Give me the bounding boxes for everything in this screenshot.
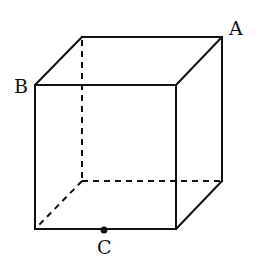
edge-top-right-diagonal [176, 37, 222, 85]
cube-diagram: A B C [0, 0, 260, 261]
label-a: A [228, 17, 243, 39]
hidden-edge-bottom-left-diagonal [35, 181, 82, 229]
point-c-dot [101, 227, 108, 234]
label-b: B [14, 75, 28, 97]
label-c: C [97, 236, 112, 258]
edge-bottom-right-diagonal [176, 181, 222, 229]
edge-top-left-diagonal [35, 37, 82, 85]
